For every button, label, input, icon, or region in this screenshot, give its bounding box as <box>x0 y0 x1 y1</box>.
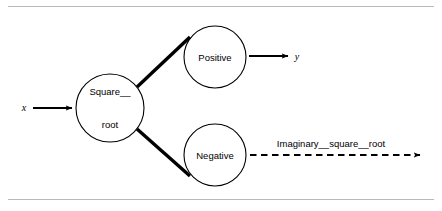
node-square-root-circle[interactable] <box>76 74 144 142</box>
diagram-figure: Square__ root Positive Negative Imaginar… <box>0 0 442 211</box>
input-variable-x: x <box>22 102 26 113</box>
output-variable-y: y <box>295 51 299 62</box>
node-positive-circle[interactable] <box>184 26 246 88</box>
diagram-canvas <box>0 0 442 211</box>
node-negative-circle[interactable] <box>184 124 246 186</box>
edge-label-imaginary-square-root: Imaginary__square__root <box>277 138 385 149</box>
edge-square-root-to-negative <box>137 129 190 176</box>
edge-square-root-to-positive <box>137 37 190 87</box>
